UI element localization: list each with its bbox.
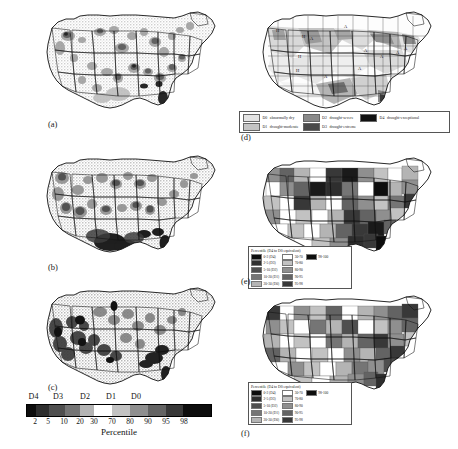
legend-percentile-e-label-98-100: 98-100	[318, 255, 328, 259]
legend-percentile-f-swatch-90-95	[282, 410, 293, 416]
legend-percentile-e-swatch-20-30	[251, 281, 262, 287]
legend-percentile-e-swatch-80-90	[282, 267, 293, 273]
legend-percentile-f-label-5-10: 5-10 (D2)	[264, 404, 278, 408]
legend-label-d0-name: abnormally dry	[270, 116, 295, 120]
legend-percentile-f-grid: 0-2 (D4) 2-5 (D3) 5-10 (D2) 10-20 (D1) 2…	[251, 390, 349, 423]
colorbar-tick-10: 10	[60, 417, 68, 426]
legend-percentile-e-item-95-98: 95-98	[282, 281, 303, 287]
legend-percentile-f-item-10-20: 10-20 (D1)	[251, 410, 279, 416]
legend-percentile-f-label-95-98: 95-98	[295, 418, 303, 422]
colorbar-swatch-90-95	[148, 405, 166, 416]
panel-label-e: (e)	[241, 276, 250, 286]
percentile-colorbar	[26, 404, 212, 417]
legend-label-d3-name: drought-extreme	[329, 125, 356, 129]
legend-percentile-f-swatch-95-98	[282, 417, 293, 423]
colorbar-drought-labels: D4 D3 D2 D1 D0	[26, 392, 212, 403]
legend-percentile-e-col1: 0-2 (D4) 2-5 (D3) 5-10 (D2) 10-20 (D1) 2…	[251, 254, 279, 287]
legend-percentile-e-label-5-10: 5-10 (D2)	[264, 268, 278, 272]
map-a	[22, 6, 234, 136]
legend-percentile-f-swatch-2-5	[251, 396, 262, 402]
legend-percentile-e-swatch-10-20	[251, 274, 262, 280]
figure-drought-maps: (a)	[0, 0, 458, 449]
colorbar-dlabel-d1: D1	[106, 392, 116, 401]
legend-label-d2-name: drought-severe	[329, 116, 353, 120]
legend-label-d1-name: drought-moderate	[270, 125, 299, 129]
legend-percentile-e-swatch-70-80	[282, 260, 293, 266]
legend-swatch-d3	[303, 123, 320, 131]
legend-percentile-f-swatch-20-30	[251, 417, 262, 423]
legend-percentile-f-swatch-0-2	[251, 390, 262, 396]
legend-percentile-f-label-0-2: 0-2 (D4)	[264, 391, 276, 395]
panel-label-d: (d)	[241, 132, 251, 142]
legend-percentile-f-item-30-70: 30-70	[282, 390, 303, 396]
colorbar-tick-95: 95	[162, 417, 170, 426]
legend-percentile-f-title: Percentile (D4 to D0 equivalent)	[251, 385, 349, 389]
legend-column-1: D0 abnormally dry D1 drought-moderate	[243, 114, 299, 130]
legend-item-d1: D1 drought-moderate	[243, 123, 299, 131]
legend-percentile-e-col3: 98-100	[306, 254, 328, 287]
legend-percentile-e-label-95-98: 95-98	[295, 282, 303, 286]
colorbar-swatch-95-98	[166, 405, 184, 416]
colorbar-dlabel-d2: D2	[80, 392, 90, 401]
legend-column-3: D4 drought-exceptional	[360, 114, 419, 130]
legend-percentile-f-swatch-80-90	[282, 403, 293, 409]
legend-percentile-e-label-90-95: 90-95	[295, 275, 303, 279]
legend-label-d0-code: D0	[263, 116, 268, 120]
legend-column-2: D2 drought-severe D3 drought-extreme	[303, 114, 357, 130]
legend-percentile-f-label-2-5: 2-5 (D3)	[264, 397, 276, 401]
legend-percentile-e-title: Percentile (D4 to D0 equivalent)	[251, 249, 349, 253]
legend-percentile-f-item-0-2: 0-2 (D4)	[251, 390, 279, 396]
colorbar-swatch-20-30	[80, 405, 94, 416]
colorbar-dlabel-d0: D0	[131, 392, 141, 401]
legend-percentile-f-swatch-98-100	[306, 390, 317, 396]
legend-item-d4: D4 drought-exceptional	[360, 114, 419, 122]
legend-percentile-e-item-0-2: 0-2 (D4)	[251, 254, 279, 260]
legend-label-d4-code: D4	[380, 116, 385, 120]
legend-percentile-e-swatch-5-10	[251, 267, 262, 273]
legend-percentile-e-grid: 0-2 (D4) 2-5 (D3) 5-10 (D2) 10-20 (D1) 2…	[251, 254, 349, 287]
legend-percentile-e-item-2-5: 2-5 (D3)	[251, 260, 279, 266]
map-d: HHA AAA AHH AAA	[238, 6, 454, 112]
colorbar-swatch-10-20	[65, 405, 81, 416]
legend-percentile-e-item-5-10: 5-10 (D2)	[251, 267, 279, 273]
legend-percentile-f-item-5-10: 5-10 (D2)	[251, 403, 279, 409]
panel-c: (c)	[22, 282, 234, 394]
legend-percentile-e-swatch-98-100	[306, 254, 317, 260]
colorbar-tick-90: 90	[144, 417, 152, 426]
legend-swatch-d2	[303, 114, 320, 122]
colorbar-tick-80: 80	[126, 417, 134, 426]
legend-drought-monitor: D0 abnormally dry D1 drought-moderate D2…	[239, 111, 450, 133]
legend-percentile-e-swatch-90-95	[282, 274, 293, 280]
panel-label-b: (b)	[48, 262, 58, 272]
legend-percentile-f-item-80-90: 80-90	[282, 403, 303, 409]
legend-percentile-f-item-90-95: 90-95	[282, 410, 303, 416]
legend-percentile-e: Percentile (D4 to D0 equivalent) 0-2 (D4…	[248, 246, 352, 289]
colorbar-tick-30: 30	[90, 417, 98, 426]
legend-percentile-f-col3: 98-100	[306, 390, 328, 423]
legend-percentile-e-swatch-0-2	[251, 254, 262, 260]
legend-percentile-e-label-70-80: 70-80	[295, 261, 303, 265]
panel-label-c: (c)	[48, 382, 57, 392]
legend-percentile-f-label-90-95: 90-95	[295, 411, 303, 415]
legend-percentile-e-item-30-70: 30-70	[282, 254, 303, 260]
legend-swatch-d1	[243, 123, 260, 131]
legend-item-d0: D0 abnormally dry	[243, 114, 299, 122]
legend-percentile-f-item-95-98: 95-98	[282, 417, 303, 423]
legend-percentile-f-label-30-70: 30-70	[295, 391, 303, 395]
colorbar-swatch-5-10	[49, 405, 65, 416]
colorbar-swatch-98-100	[183, 405, 211, 416]
legend-percentile-e-swatch-2-5	[251, 260, 262, 266]
legend-percentile-f-swatch-30-70	[282, 390, 293, 396]
legend-percentile-e-label-20-30: 20-30 (D0)	[264, 282, 280, 286]
legend-percentile-e-item-10-20: 10-20 (D1)	[251, 274, 279, 280]
colorbar-swatch-70-80	[112, 405, 130, 416]
legend-percentile-f-item-98-100: 98-100	[306, 390, 328, 396]
legend-percentile-e-col2: 30-70 70-80 80-90 90-95 95-98	[282, 254, 303, 287]
legend-percentile-f-col1: 0-2 (D4) 2-5 (D3) 5-10 (D2) 10-20 (D1) 2…	[251, 390, 279, 423]
legend-swatch-d4	[360, 114, 377, 122]
colorbar-swatch-80-90	[130, 405, 148, 416]
legend-percentile-e-swatch-30-70	[282, 254, 293, 260]
colorbar-dlabel-d4: D4	[29, 392, 39, 401]
legend-percentile-f-label-10-20: 10-20 (D1)	[264, 411, 280, 415]
legend-percentile-e-label-10-20: 10-20 (D1)	[264, 275, 280, 279]
